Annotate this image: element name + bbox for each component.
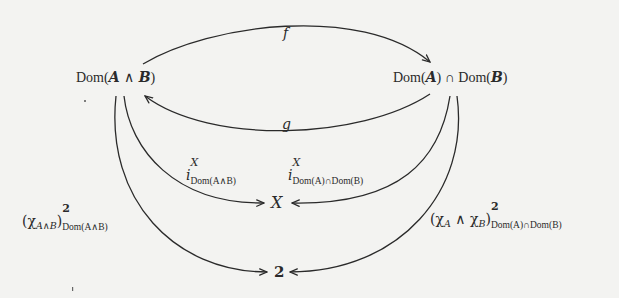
wedge-chi: ∧ χ — [451, 211, 479, 227]
speck — [84, 100, 86, 102]
arrow-layer — [0, 0, 619, 298]
chi-sup: 2 — [491, 201, 499, 212]
dom-prefix: Dom( — [76, 70, 109, 85]
label-g: g — [282, 117, 291, 131]
dom-suffix: ) — [503, 70, 508, 85]
inclusion-sub: Dom(A∧B) — [190, 177, 235, 187]
var-a: A — [426, 69, 437, 85]
label-inclusion-left: iXDom(A∧B) — [186, 168, 236, 183]
var-a: A — [109, 69, 120, 85]
chi-domain-sub: Dom(A∧B) — [62, 223, 107, 233]
node-dom-a-cap-dom-b: Dom(A) ∩ Dom(B) — [393, 70, 508, 85]
inclusion-sub: Dom(A)∩Dom(B) — [292, 177, 363, 187]
cap-mid: ) ∩ Dom( — [437, 70, 491, 85]
var-b: B — [139, 69, 151, 85]
var-b: B — [491, 69, 503, 85]
label-inclusion-right: iXDom(A)∩Dom(B) — [288, 168, 363, 183]
speck — [72, 287, 73, 291]
node-x: X — [271, 195, 282, 211]
label-characteristic-left: (χA∧B)2Dom(A∧B) — [22, 214, 108, 229]
commutative-diagram: Dom(A ∧ B) Dom(A) ∩ Dom(B) X 2 f g iXDom… — [0, 0, 619, 298]
wedge-op: ∧ — [120, 69, 139, 85]
node-dom-a-and-b: Dom(A ∧ B) — [76, 70, 155, 85]
arrow-inclusion-left — [124, 96, 264, 203]
chi-sup: 2 — [62, 203, 70, 214]
chi-a-sub: A — [444, 218, 451, 229]
paren-open-chi: (χ — [430, 211, 444, 227]
dom-prefix: Dom( — [393, 70, 426, 85]
dom-suffix: ) — [151, 70, 156, 85]
paren-open-chi: (χ — [22, 213, 36, 229]
label-characteristic-right: (χA ∧ χB)2Dom(A)∩Dom(B) — [430, 212, 562, 227]
arrow-inclusion-right — [292, 96, 450, 203]
chi-domain-sub: Dom(A)∩Dom(B) — [491, 221, 562, 231]
chi-sub: A∧B — [36, 220, 57, 231]
node-two: 2 — [274, 265, 284, 280]
inclusion-sup: X — [190, 157, 198, 168]
label-f: f — [283, 26, 288, 40]
chi-b-sub: B — [478, 218, 485, 229]
inclusion-sup: X — [292, 157, 300, 168]
